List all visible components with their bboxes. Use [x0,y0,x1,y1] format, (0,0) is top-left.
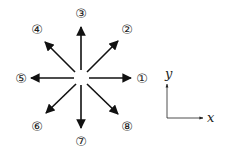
label-7: ⑦ [75,134,87,149]
arrow-6 [46,84,76,113]
x-axis-label: x [207,110,215,125]
arrow-2 [87,41,118,72]
label-5: ⑤ [15,71,27,86]
label-8: ⑧ [121,119,133,134]
direction-diagram: ① ② ③ ④ ⑤ ⑥ ⑦ ⑧ y x [0,0,225,159]
y-axis-label: y [164,66,173,81]
label-2: ② [121,22,133,37]
arrows [31,27,131,128]
arrow-8 [87,84,118,114]
label-3: ③ [75,6,87,21]
axes-legend: y x [164,66,215,125]
label-1: ① [136,71,148,86]
label-4: ④ [31,22,43,37]
arrow-4 [45,42,75,72]
label-6: ⑥ [31,119,43,134]
